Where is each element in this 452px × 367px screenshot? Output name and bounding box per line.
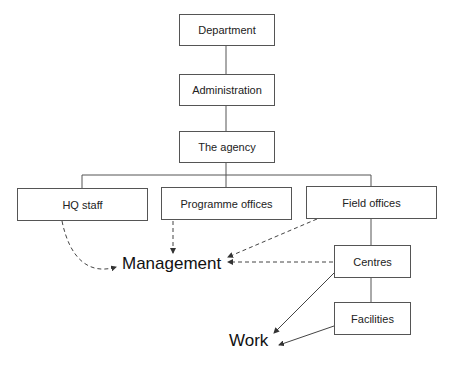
node-department: Department <box>179 14 275 46</box>
node-label: Field offices <box>342 197 401 209</box>
node-facilities: Facilities <box>334 302 411 335</box>
node-hq-staff: HQ staff <box>17 188 148 221</box>
node-label: HQ staff <box>62 199 102 211</box>
node-label: Administration <box>192 84 262 96</box>
node-administration: Administration <box>179 74 275 106</box>
node-field-offices: Field offices <box>306 186 437 219</box>
outcome-management: Management <box>122 254 221 274</box>
outcome-work: Work <box>229 331 268 351</box>
node-centres: Centres <box>334 245 411 278</box>
node-label: Facilities <box>351 313 394 325</box>
node-programme-offices: Programme offices <box>161 187 292 220</box>
node-agency: The agency <box>179 131 275 163</box>
node-label: Programme offices <box>180 198 272 210</box>
node-label: The agency <box>198 141 255 153</box>
node-label: Department <box>198 24 255 36</box>
node-label: Centres <box>353 256 392 268</box>
